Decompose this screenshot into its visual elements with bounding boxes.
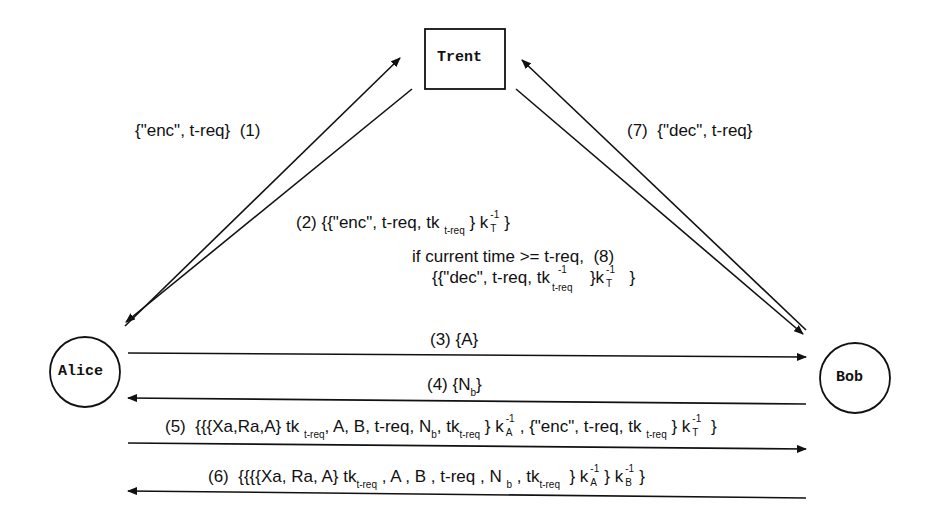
key-sup: -1 [606, 264, 615, 275]
msg-3-text: {A} [456, 330, 479, 349]
arrow-msg-5 [128, 443, 806, 449]
trent-label: Trent [437, 49, 482, 66]
msg-2-key: -1T [488, 215, 504, 233]
msg-5-part: {{{Xa,Ra,A} tk [195, 417, 299, 436]
msg-6-sub: t-req [356, 479, 377, 490]
key-sup: -1 [590, 463, 599, 474]
msg-5-label: (5) {{{Xa,Ra,A} tk t-req, A, B, t-req, N… [165, 417, 717, 437]
msg-3-num: (3) [430, 330, 451, 349]
msg-1-text: {"enc", t-req} [135, 121, 230, 140]
key-sup: -1 [490, 209, 499, 220]
msg-8-key: -1T [604, 270, 620, 288]
msg-5-sub: t-req [460, 429, 481, 440]
msg-2-part: } [504, 213, 510, 232]
alice-label: Alice [58, 363, 103, 380]
msg-5-key-t: -1T [690, 419, 706, 437]
msg-2-part: } k [469, 213, 488, 232]
msg-7-label: (7) {"dec", t-req} [627, 121, 752, 141]
msg-7-num: (7) [627, 121, 648, 140]
msg-6-label: (6) {{{{Xa, Ra, A} tkt-req , A , B , t-r… [208, 467, 645, 487]
key-sub: A [506, 427, 513, 438]
msg-8-content: {{"dec", t-req, tk-1t-req}k-1T } [432, 268, 635, 288]
msg-5-part: , {"enc", t-req, tk [520, 417, 642, 436]
msg-5-part: } [711, 417, 717, 436]
msg-6-sub: b [506, 479, 512, 490]
msg-2-num: (2) [296, 213, 317, 232]
msg-8-part: {{"dec", t-req, tk [432, 268, 550, 287]
msg-5-sub: t-req [304, 429, 325, 440]
key-sup: -1 [692, 413, 701, 424]
msg-1-label: {"enc", t-req} (1) [135, 121, 260, 141]
msg-8-part: }k [590, 268, 604, 287]
key-sub: A [590, 477, 597, 488]
key-sub: T [606, 278, 612, 289]
msg-2-part: {{"enc", t-req, tk [322, 213, 440, 232]
msg-8-part: } [630, 268, 636, 287]
msg-6-key-a: -1A [588, 469, 604, 487]
msg-2-sub: t-req [444, 225, 465, 236]
key-sub: T [490, 223, 496, 234]
msg-4-part: } [476, 375, 482, 394]
msg-8-label: if current time >= t-req, (8) [412, 247, 614, 267]
msg-3-label: (3) {A} [430, 330, 478, 350]
msg-6-part: } [639, 467, 645, 486]
msg-4-num: (4) [427, 375, 448, 394]
arrow-msg-4 [128, 398, 806, 404]
msg-6-key-b: -1B [623, 469, 639, 487]
arrow-msg-3 [128, 353, 806, 357]
msg-6-part: } k [569, 467, 588, 486]
key-sup: -1 [625, 463, 634, 474]
msg-5-part: , tk [437, 417, 460, 436]
msg-5-key-a: -1A [504, 419, 520, 437]
msg-5-part: } k [671, 417, 690, 436]
msg-7-text: {"dec", t-req} [657, 121, 752, 140]
msg-5-part: } k [485, 417, 504, 436]
arrow-msg-1 [125, 58, 400, 326]
tk-sub: t-req [552, 282, 573, 293]
key-sub: T [692, 427, 698, 438]
msg-4-label: (4) {Nb} [427, 375, 482, 395]
msg-5-sub: b [431, 429, 437, 440]
key-sub: B [625, 477, 632, 488]
msg-4-sub: b [470, 387, 476, 398]
msg-6-part: } k [604, 467, 623, 486]
arrow-msg-6 [128, 491, 806, 498]
msg-2-label: (2) {{"enc", t-req, tk t-req } k-1T} [296, 213, 510, 233]
msg-6-part: {{{{Xa, Ra, A} tk [238, 467, 356, 486]
msg-6-sub: t-req [539, 479, 560, 490]
msg-6-num: (6) [208, 467, 229, 486]
key-sup: -1 [506, 413, 515, 424]
msg-5-sub: t-req [646, 429, 667, 440]
msg-5-part: , A, B, t-req, N [325, 417, 432, 436]
msg-1-num: (1) [240, 121, 261, 140]
msg-8-tk-stack: -1t-req [550, 270, 590, 288]
bob-label: Bob [836, 369, 863, 386]
msg-4-part: {N [453, 375, 471, 394]
msg-6-part: , A , B , t-req , N [382, 467, 502, 486]
msg-5-num: (5) [165, 417, 186, 436]
msg-6-part: , tk [517, 467, 540, 486]
tk-sup: -1 [558, 264, 567, 275]
